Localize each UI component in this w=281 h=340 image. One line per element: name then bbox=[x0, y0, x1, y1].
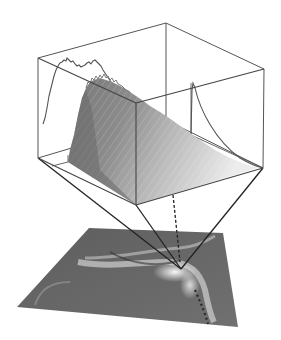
figure-canvas bbox=[0, 0, 281, 340]
figure bbox=[0, 0, 281, 340]
image-plane bbox=[17, 228, 238, 327]
surface-plot bbox=[68, 74, 258, 205]
